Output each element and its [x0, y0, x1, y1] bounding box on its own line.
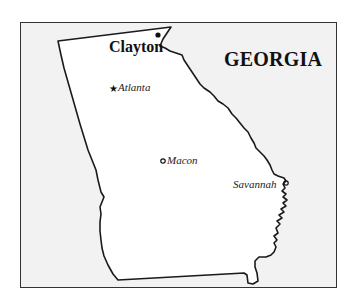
city-label-atlanta: Atlanta: [118, 81, 150, 93]
city-label-macon: Macon: [167, 154, 198, 166]
georgia-state-outline: ★: [0, 0, 358, 304]
city-label-clayton: Clayton: [109, 38, 163, 56]
city-label-savannah: Savannah: [233, 178, 276, 190]
clayton-marker-icon: [155, 32, 160, 37]
map-title: GEORGIA: [224, 48, 322, 71]
atlanta-star-icon: ★: [109, 83, 118, 94]
